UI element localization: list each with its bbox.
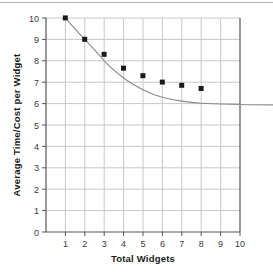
y-tick-label-6: 6 <box>34 99 39 109</box>
y-tick-label-4: 4 <box>34 142 39 152</box>
y-tick-label-3: 3 <box>34 163 39 173</box>
data-point-7 <box>179 83 184 88</box>
y-tick-labels: 10 9 8 7 6 5 4 3 2 1 0 <box>29 14 39 238</box>
x-tick-label-3: 3 <box>102 239 107 249</box>
chart-canvas: 10 9 8 7 6 5 4 3 2 1 0 1 2 3 4 5 6 7 8 9… <box>0 0 273 273</box>
x-tick-labels: 1 2 3 4 5 6 7 8 9 10 <box>63 239 245 249</box>
data-point-1 <box>63 15 68 20</box>
x-tick-label-8: 8 <box>199 239 204 249</box>
y-tick-label-0: 0 <box>34 228 39 238</box>
x-tick-marks <box>65 232 240 236</box>
y-tick-label-2: 2 <box>34 185 39 195</box>
x-axis-title: Total Widgets <box>111 253 175 264</box>
y-tick-label-10: 10 <box>29 14 39 24</box>
x-tick-label-7: 7 <box>179 239 184 249</box>
y-tick-label-1: 1 <box>34 206 39 216</box>
x-tick-label-9: 9 <box>218 239 223 249</box>
y-tick-label-9: 9 <box>34 35 39 45</box>
data-point-6 <box>160 80 165 85</box>
data-point-3 <box>102 52 107 57</box>
y-axis-title: Average Time/Cost per Widget <box>11 53 22 196</box>
x-tick-label-10: 10 <box>235 239 245 249</box>
data-point-2 <box>82 37 87 42</box>
x-tick-label-4: 4 <box>121 239 126 249</box>
x-tick-label-6: 6 <box>160 239 165 249</box>
x-tick-label-2: 2 <box>82 239 87 249</box>
y-tick-label-7: 7 <box>34 78 39 88</box>
data-point-5 <box>140 73 145 78</box>
x-tick-label-5: 5 <box>140 239 145 249</box>
x-tick-label-1: 1 <box>63 239 68 249</box>
y-tick-label-5: 5 <box>34 121 39 131</box>
data-point-8 <box>199 86 204 91</box>
y-tick-label-8: 8 <box>34 56 39 66</box>
data-point-4 <box>121 66 126 71</box>
chart-figure: 10 9 8 7 6 5 4 3 2 1 0 1 2 3 4 5 6 7 8 9… <box>0 0 273 273</box>
